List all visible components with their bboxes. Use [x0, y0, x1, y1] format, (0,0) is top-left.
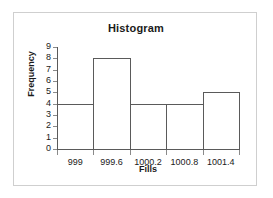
x-tick-label: 1001.4 [203, 157, 239, 167]
chart-title: Histogram [14, 22, 258, 34]
y-tick-mark [53, 92, 57, 93]
y-tick-label: 6 [46, 75, 51, 86]
y-tick-mark [53, 70, 57, 71]
y-tick-mark [53, 81, 57, 82]
histogram-bar [93, 58, 131, 150]
y-tick-label: 0 [46, 143, 51, 154]
x-tick-label: 999 [57, 157, 93, 167]
y-tick-label: 5 [46, 86, 51, 97]
y-tick-label: 2 [46, 120, 51, 131]
y-tick-mark [53, 47, 57, 48]
x-tick-mark [203, 150, 204, 155]
plot-area: 0123456789 999999.61000.21000.81001.4 [57, 47, 239, 149]
y-tick-label: 9 [46, 41, 51, 52]
histogram-bar [166, 104, 204, 150]
x-tick-label: 1000.8 [166, 157, 202, 167]
y-tick-label: 3 [46, 109, 51, 120]
x-tick-label: 999.6 [93, 157, 129, 167]
y-tick-mark [53, 58, 57, 59]
chart-frame: Histogram Frequency Fills 0123456789 999… [13, 12, 257, 186]
y-tick-label: 8 [46, 52, 51, 63]
histogram-bar [130, 104, 167, 150]
x-tick-mark [239, 150, 240, 155]
x-tick-mark [166, 150, 167, 155]
y-axis-title: Frequency [26, 29, 36, 119]
x-tick-label: 1000.2 [130, 157, 166, 167]
histogram-bar [57, 104, 94, 150]
y-tick-label: 4 [46, 98, 51, 109]
x-tick-mark [57, 150, 58, 155]
x-tick-mark [93, 150, 94, 155]
y-tick-label: 7 [46, 64, 51, 75]
histogram-bar [203, 92, 240, 150]
y-tick-label: 1 [46, 132, 51, 143]
x-tick-mark [130, 150, 131, 155]
